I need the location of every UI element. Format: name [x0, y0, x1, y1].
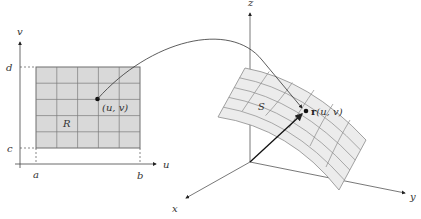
uv-plane: v u d c a b R (u, v) [6, 26, 169, 181]
x-axis-label: x [172, 203, 178, 214]
xyz-space: z x y S r(u, v) [172, 0, 416, 214]
v-axis-label: v [17, 26, 23, 37]
point-r-label: r(u, v) [311, 106, 343, 117]
y-axis-label: y [409, 191, 416, 202]
point-uv-label: (u, v) [102, 102, 128, 113]
point-r [304, 109, 309, 114]
surface-s [218, 68, 366, 190]
region-label: R [62, 118, 71, 129]
parametric-surface-diagram: v u d c a b R (u, v) z x y [0, 0, 421, 219]
surface-label: S [258, 101, 265, 112]
u-axis-label: u [163, 159, 169, 170]
tick-b: b [137, 170, 143, 181]
tick-a: a [33, 169, 39, 180]
point-r-label-args: (u, v) [316, 106, 342, 117]
z-axis-label: z [247, 0, 254, 8]
x-axis [186, 162, 250, 198]
tick-c: c [7, 143, 13, 154]
tick-d: d [6, 62, 12, 73]
